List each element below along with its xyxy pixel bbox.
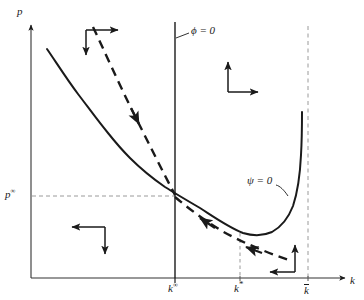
saddle-arrow-lower bbox=[200, 218, 215, 228]
x-tick-label-k-bar: k bbox=[304, 284, 309, 296]
guideline-group bbox=[32, 26, 308, 278]
y-axis-label: p bbox=[17, 6, 23, 17]
k-infinity-sup: ∞ bbox=[173, 281, 178, 288]
x-tick-label-k-star: k* bbox=[234, 283, 243, 294]
saddle-path-upper-left bbox=[93, 27, 175, 195]
phase-diagram-canvas bbox=[0, 0, 364, 300]
psi-nullcline-label: ψ = 0 bbox=[247, 175, 272, 186]
saddle-path-arrowheads bbox=[131, 108, 262, 253]
saddle-arrow-upper bbox=[131, 108, 139, 124]
quadrant-arrows-top-right bbox=[228, 62, 258, 92]
psi-label-leader bbox=[276, 185, 288, 196]
phi-label-leader bbox=[176, 33, 189, 38]
quadrant-arrows-top-left bbox=[86, 30, 118, 55]
k-star-sup: * bbox=[239, 279, 243, 289]
x-axis-label: k bbox=[350, 275, 355, 286]
axis-group bbox=[31, 25, 345, 278]
phi-nullcline-label: ϕ = 0 bbox=[191, 25, 215, 36]
quadrant-arrows-bottom-left bbox=[72, 227, 105, 254]
y-tick-label-p-infinity: p∞ bbox=[5, 189, 15, 200]
k-bar-base: k bbox=[304, 284, 309, 296]
annotation-leaders bbox=[176, 33, 288, 196]
phase-diagram-figure: p k ϕ = 0 ψ = 0 p∞ k∞ k* k bbox=[0, 0, 364, 300]
p-infinity-sup: ∞ bbox=[11, 187, 16, 194]
x-tick-label-k-infinity: k∞ bbox=[168, 283, 178, 294]
